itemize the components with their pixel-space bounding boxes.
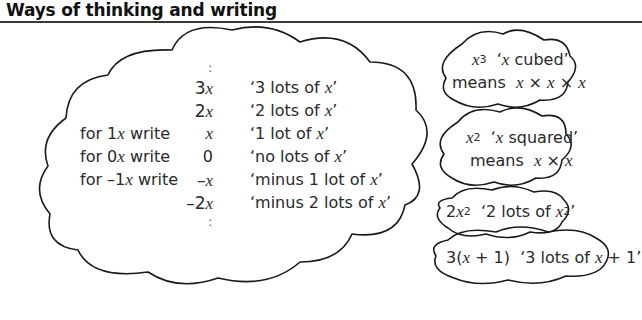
square-line2: means x × x: [470, 151, 573, 171]
label-minus-1x: for –1x write: [80, 170, 178, 190]
meaning-minus-x: ‘minus 1 lot of x’: [250, 170, 383, 190]
label-1x: for 1x write: [80, 124, 170, 144]
meaning-x: ‘1 lot of x’: [250, 124, 329, 144]
expression-0: 0: [168, 147, 213, 166]
three-x-plus-one-text: 3(x + 1) ‘3 lots of x + 1’: [446, 248, 641, 268]
ellipsis-top: :: [208, 60, 212, 75]
expression-2x: 2x: [168, 101, 213, 122]
expression-x: x: [168, 124, 213, 144]
expression-3x: 3x: [168, 78, 213, 99]
two-x-squared-text: 2x2 ‘2 lots of x2’: [446, 202, 575, 222]
cube-line2: means x × x × x: [452, 73, 586, 93]
meaning-0: ‘no lots of x’: [250, 147, 347, 167]
square-line1: x2 ‘x squared’: [466, 128, 578, 148]
cube-line1: x3 ‘x cubed’: [472, 50, 569, 70]
meaning-minus-2x: ‘minus 2 lots of x’: [250, 193, 391, 213]
ellipsis-bottom: :: [208, 214, 212, 229]
label-0x: for 0x write: [80, 147, 170, 167]
expression-minus-2x: –2x: [168, 193, 213, 214]
expression-minus-x: –x: [168, 170, 213, 191]
meaning-2x: ‘2 lots of x’: [250, 101, 337, 121]
meaning-3x: ‘3 lots of x’: [250, 78, 337, 98]
